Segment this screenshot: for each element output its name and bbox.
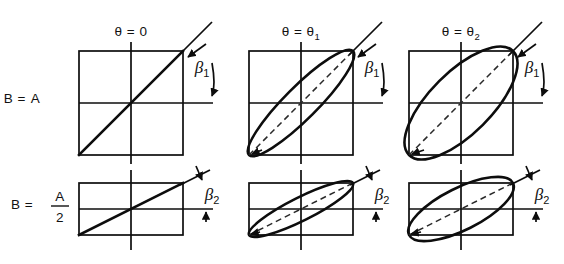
tangent-arrow xyxy=(366,166,372,180)
cell-r1c2: β1 xyxy=(238,22,384,166)
polarization-ellipse-figure: θ = 0 θ = θ1 θ = θ2 B =A B = A 2 xyxy=(0,0,564,264)
row-labels: B =A B = A 2 xyxy=(4,91,69,225)
beta-label-r1c3: β1 xyxy=(524,58,540,79)
beta-label-r2c1: β2 xyxy=(204,185,220,206)
figure-canvas: θ = 0 θ = θ1 θ = θ2 B =A B = A 2 xyxy=(0,0,564,264)
column-header-theta-0: θ = 0 xyxy=(115,24,148,39)
tangent-line xyxy=(350,170,380,185)
tangent-line xyxy=(510,170,540,185)
cell-r1c1: β1 xyxy=(79,22,214,164)
angle-arc-arrow xyxy=(542,63,544,96)
rotation-direction-arrow xyxy=(251,232,260,234)
tangent-line xyxy=(179,22,212,55)
column-header-theta-1: θ = θ1 xyxy=(282,24,321,42)
rotation-direction-arrow xyxy=(412,150,424,154)
tangent-line xyxy=(180,170,210,185)
beta-label-r1c1: β1 xyxy=(194,58,210,79)
angle-arc-arrow xyxy=(382,63,384,96)
column-header-theta-2: θ = θ2 xyxy=(442,24,481,42)
tangent-arrow xyxy=(358,44,376,57)
angle-arc-arrow xyxy=(212,63,214,96)
row-label-b-equals-a-over-2-lead: B = xyxy=(11,197,33,212)
column-headers: θ = 0 θ = θ1 θ = θ2 xyxy=(115,24,481,42)
tangent-arrow xyxy=(196,166,202,180)
cell-r2c2: β2 xyxy=(244,166,389,250)
cell-r2c1: β2 xyxy=(79,166,219,250)
row-label-fraction-denominator: 2 xyxy=(56,210,64,225)
rotation-direction-arrow xyxy=(411,232,421,234)
cell-r2c3: β2 xyxy=(400,164,550,254)
tangent-arrow xyxy=(188,44,206,57)
tangent-arrow xyxy=(526,166,532,180)
beta-label-r2c2: β2 xyxy=(374,185,390,206)
row-label-fraction-numerator: A xyxy=(55,189,65,204)
cell-r1c3: β1 xyxy=(387,22,544,177)
row-label-b-equals-a: B =A xyxy=(4,91,41,106)
beta-label-r1c2: β1 xyxy=(364,58,380,79)
tangent-line xyxy=(509,22,542,55)
tangent-line xyxy=(349,22,382,55)
tangent-arrow xyxy=(518,44,536,57)
beta-label-r2c3: β2 xyxy=(534,185,550,206)
